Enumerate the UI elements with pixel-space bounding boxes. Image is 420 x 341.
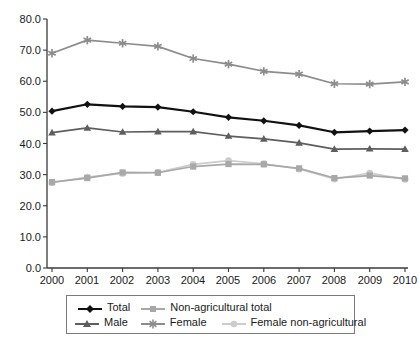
data-point-marker [190,163,196,169]
legend-label: Female non-agricultural [251,316,367,328]
y-tick-label: 40.0 [20,138,41,150]
series-male [48,124,409,152]
legend-label: Female [170,316,207,328]
legend-key-total-icon [77,301,103,313]
x-tick-label: 2009 [358,274,382,286]
data-point-marker [48,108,55,115]
y-tick-label: 30.0 [20,169,41,181]
data-point-marker [331,175,337,181]
x-tick-label: 2005 [216,274,240,286]
y-tick-label: 20.0 [20,200,41,212]
axis-lines [47,19,408,268]
x-tick-label: 2010 [393,274,417,286]
y-tick-label: 70.0 [20,44,41,56]
y-axis-tick-labels: 80.0 70.0 60.0 50.0 40.0 30.0 20.0 10.0 … [20,13,41,274]
legend-label: Non-agricultural total [170,301,272,313]
data-point-marker [84,175,90,181]
data-point-marker [261,161,267,167]
data-point-marker [155,170,161,176]
data-point-marker [119,103,126,110]
y-tick-label: 60.0 [20,75,41,87]
legend-item-nonagricultural-total[interactable]: Non-agricultural total [140,301,272,313]
x-tick-label: 2002 [110,274,134,286]
legend-row: Total Non-agricultural total [72,299,349,314]
data-point-marker [154,103,161,110]
x-tick-label: 2008 [322,274,346,286]
data-point-marker [366,127,373,134]
legend-key-nonagri-total-icon [140,301,166,313]
series-layer [48,36,409,186]
data-point-marker [225,161,231,167]
data-point-marker [190,108,197,115]
chart-legend: Total Non-agricultural total [66,295,355,334]
legend-key-male-icon [74,316,100,328]
x-tick-label: 2001 [75,274,99,286]
series-non-agricultural-total [49,161,408,185]
data-point-marker [84,101,91,108]
x-tick-label: 2000 [40,274,64,286]
y-tick-label: 50.0 [20,106,41,118]
series-female [48,36,408,88]
x-tick-label: 2007 [287,274,311,286]
data-point-marker [225,114,232,121]
data-point-marker [401,127,408,134]
legend-row: Male Female [72,314,349,329]
data-point-marker [402,175,408,181]
y-tick-label: 80.0 [20,13,41,25]
legend-item-total[interactable]: Total [77,301,130,313]
legend-key-female-icon [140,316,166,328]
series-total [48,101,408,136]
legend-label: Male [104,316,128,328]
x-axis-tick-labels: 2000 2001 2002 2003 2004 2005 2006 2007 … [40,274,417,286]
data-point-marker [296,122,303,129]
legend-key-female-nonagri-icon [221,316,247,328]
legend-item-female[interactable]: Female [140,316,207,328]
chart-figure: 80.0 70.0 60.0 50.0 40.0 30.0 20.0 10.0 … [0,0,420,341]
data-point-marker [296,165,302,171]
data-point-marker [120,169,126,175]
legend-item-female-nonagricultural[interactable]: Female non-agricultural [221,316,367,328]
data-point-marker [331,129,338,136]
data-point-marker [260,117,267,124]
legend-label: Total [107,301,130,313]
y-tick-label: 0.0 [26,262,41,274]
x-tick-label: 2006 [252,274,276,286]
plot-area: 80.0 70.0 60.0 50.0 40.0 30.0 20.0 10.0 … [0,0,420,290]
line-chart-svg: 80.0 70.0 60.0 50.0 40.0 30.0 20.0 10.0 … [0,0,420,290]
x-tick-label: 2004 [181,274,205,286]
data-point-marker [48,49,55,57]
legend-item-male[interactable]: Male [74,316,128,328]
y-tick-label: 10.0 [20,231,41,243]
x-tick-label: 2003 [146,274,170,286]
data-point-marker [367,172,373,178]
data-point-marker [49,179,55,185]
